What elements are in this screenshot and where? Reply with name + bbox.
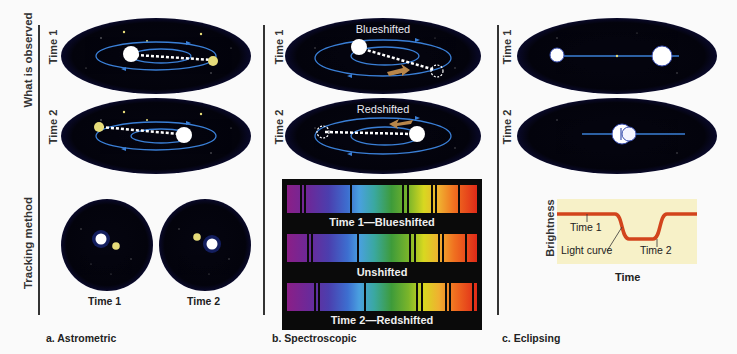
spectra-panel: Time 1—Blueshifted Unshifted Time 2—Reds… (282, 179, 482, 330)
chart-ylabel: Brightness (544, 198, 556, 258)
astrometric-time2-sky (61, 98, 251, 174)
spectrum-label-unshifted: Unshifted (282, 266, 482, 278)
astrometric-tracking-time1 (61, 199, 153, 291)
astrometric-caption: a. Astrometric (46, 332, 116, 344)
panel-b-divider (263, 25, 265, 315)
annotation-time2: Time 2 (640, 244, 672, 256)
tracking-time2-label: Time 2 (187, 295, 220, 307)
spectrum-label-redshifted: Time 2—Redshifted (282, 314, 482, 326)
panel-c-divider (497, 25, 499, 315)
eclipsing-caption: c. Eclipsing (502, 332, 560, 344)
row-divider-line (38, 25, 40, 315)
time-1-label-b: Time 1 (273, 27, 285, 67)
time-1-label-c: Time 1 (501, 27, 513, 67)
spectroscopic-time2-sky: Redshifted (285, 98, 481, 174)
spectrum-redshifted (287, 283, 477, 311)
astrometric-tracking-time2 (159, 199, 251, 291)
row-label-observed: What is observed (22, 0, 34, 120)
spectrum-unshifted (287, 234, 477, 262)
eclipsing-time2-sky (517, 98, 717, 174)
time-2-label-c: Time 2 (501, 107, 513, 147)
annotation-light-curve: Light curve (561, 244, 612, 256)
time-2-label-b: Time 2 (273, 107, 285, 147)
spectrum-blueshifted (287, 185, 477, 213)
time-2-label-a: Time 2 (47, 107, 59, 147)
chart-xlabel: Time (615, 271, 640, 283)
tracking-time1-label: Time 1 (88, 295, 121, 307)
astrometric-time1-sky (61, 18, 251, 94)
spectroscopic-time1-sky: Blueshifted (285, 18, 481, 94)
time-1-label-a: Time 1 (47, 27, 59, 67)
eclipsing-time1-sky (517, 18, 717, 94)
spectrum-label-blueshifted: Time 1—Blueshifted (282, 216, 482, 228)
annotation-time1: Time 1 (570, 221, 602, 233)
row-label-tracking: Tracking method (22, 183, 34, 303)
spectroscopic-caption: b. Spectroscopic (272, 332, 357, 344)
light-curve-chart: Time 1 Light curve Time 2 (557, 199, 697, 264)
